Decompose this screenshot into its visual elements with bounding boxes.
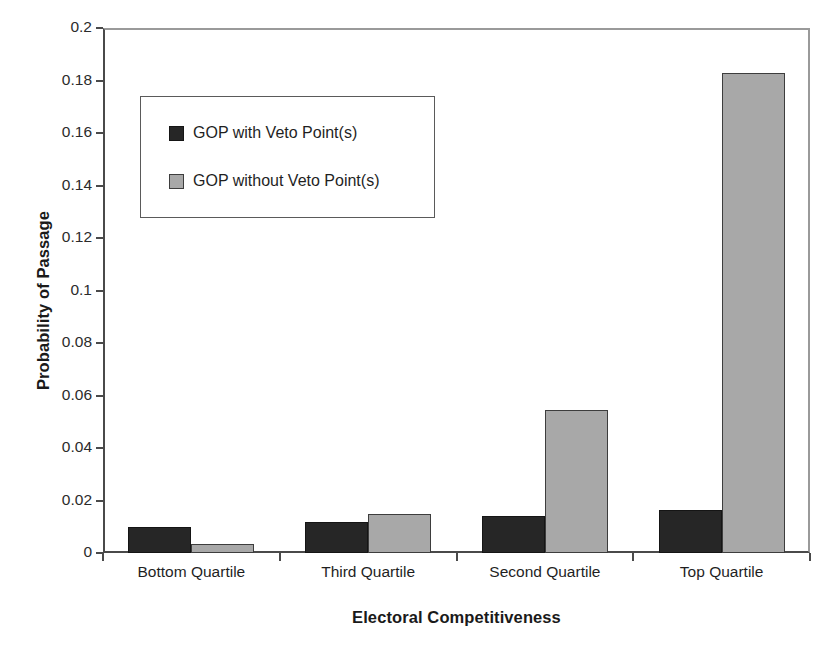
x-axis-category-label: Second Quartile (455, 563, 635, 581)
x-axis-category-label: Third Quartile (278, 563, 458, 581)
bar (305, 522, 368, 553)
y-axis-tick-label: 0.1 (70, 281, 92, 299)
y-axis-tick-mark (96, 237, 103, 239)
y-axis-tick-label: 0.02 (62, 491, 92, 509)
y-axis-tick-mark (96, 185, 103, 187)
bar (545, 410, 608, 553)
y-axis-tick-mark (96, 80, 103, 82)
y-axis-tick-mark (96, 27, 103, 29)
y-axis-tick-label: 0.16 (62, 123, 92, 141)
legend-entry: GOP without Veto Point(s) (169, 172, 379, 190)
y-axis-title: Probability of Passage (34, 151, 53, 451)
y-axis-tick-label: 0.18 (62, 71, 92, 89)
x-axis-tick-mark (809, 553, 811, 561)
legend-entry-label: GOP without Veto Point(s) (193, 172, 379, 190)
y-axis-tick-mark (96, 500, 103, 502)
legend-swatch-icon (169, 174, 184, 189)
y-axis-tick-mark (96, 342, 103, 344)
x-axis-tick-mark (279, 553, 281, 561)
x-axis-category-label: Bottom Quartile (101, 563, 281, 581)
bar (482, 516, 545, 553)
y-axis-tick-mark (96, 290, 103, 292)
bar-chart-figure: Probability of Passage 00.020.040.060.08… (0, 0, 837, 655)
y-axis-tick-label: 0.08 (62, 333, 92, 351)
y-axis-tick-label: 0.12 (62, 228, 92, 246)
bar (659, 510, 722, 553)
legend-swatch-icon (169, 126, 184, 141)
bar (128, 527, 191, 553)
bar (191, 544, 254, 553)
bar (368, 514, 431, 553)
legend: GOP with Veto Point(s) GOP without Veto … (140, 96, 435, 218)
bar (722, 73, 785, 553)
x-axis-tick-mark (632, 553, 634, 561)
y-axis-tick-mark (96, 447, 103, 449)
y-axis-tick-mark (96, 395, 103, 397)
y-axis-tick-mark (96, 132, 103, 134)
y-axis-tick-label: 0 (83, 543, 92, 561)
legend-entry: GOP with Veto Point(s) (169, 124, 357, 142)
y-axis-tick-label: 0.14 (62, 176, 92, 194)
y-axis-tick-label: 0.04 (62, 438, 92, 456)
x-axis-tick-mark (456, 553, 458, 561)
x-axis-title: Electoral Competitiveness (103, 608, 810, 627)
legend-entry-label: GOP with Veto Point(s) (193, 124, 357, 142)
y-axis-tick-label: 0.2 (70, 18, 92, 36)
y-axis-tick-label: 0.06 (62, 386, 92, 404)
x-axis-tick-mark (102, 553, 104, 561)
x-axis-category-label: Top Quartile (632, 563, 812, 581)
